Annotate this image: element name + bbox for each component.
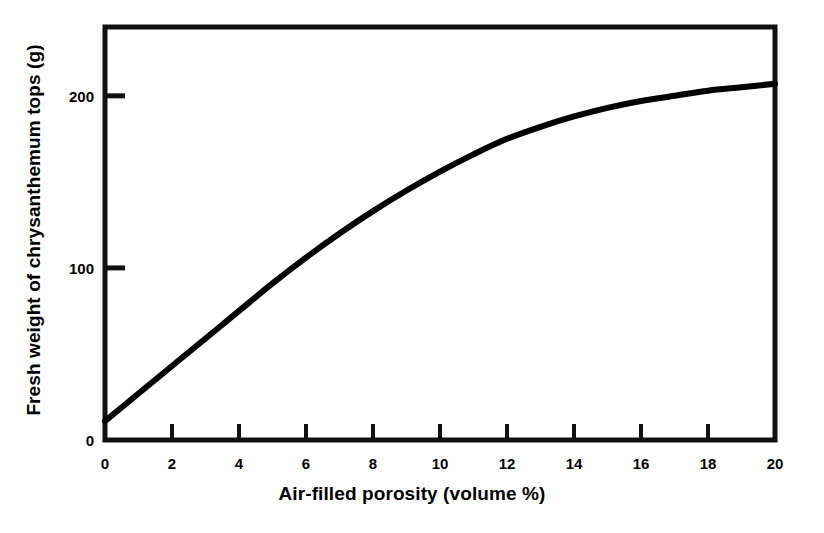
x-axis-tick-label: 2 — [168, 456, 176, 471]
y-axis-ticks — [107, 96, 125, 268]
x-axis-tick-label: 8 — [369, 456, 377, 471]
x-axis-tick-label: 12 — [499, 456, 516, 471]
plot-area-svg — [0, 0, 824, 533]
x-axis-tick-label: 20 — [767, 456, 784, 471]
x-axis-tick-label: 4 — [235, 456, 243, 471]
x-axis-title: Air-filled porosity (volume %) — [279, 484, 546, 503]
axes-frame — [105, 27, 775, 440]
y-axis-title: Fresh weight of chrysanthemum tops (g) — [24, 20, 54, 440]
x-axis-tick-label: 10 — [432, 456, 449, 471]
plot-frame — [105, 27, 775, 440]
x-axis-tick-label: 6 — [302, 456, 310, 471]
x-axis-ticks — [172, 424, 708, 438]
data-series-line — [105, 84, 775, 421]
x-axis-tick-label: 14 — [566, 456, 583, 471]
x-axis-tick-label: 18 — [700, 456, 717, 471]
x-axis-tick-label: 16 — [633, 456, 650, 471]
x-axis-tick-label: 0 — [101, 456, 109, 471]
chart-figure: 02468101214161820 0100200 Air-filled por… — [0, 0, 824, 533]
